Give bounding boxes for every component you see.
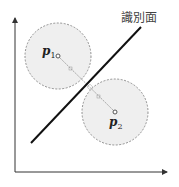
diagram-canvas bbox=[0, 0, 179, 187]
point-p1-label: p1 bbox=[42, 44, 55, 60]
point-p2-label: p2 bbox=[109, 115, 122, 131]
decision-boundary-label: 識別面 bbox=[121, 8, 157, 25]
point-p2-icon bbox=[113, 110, 117, 114]
point-p1-icon bbox=[56, 54, 60, 58]
